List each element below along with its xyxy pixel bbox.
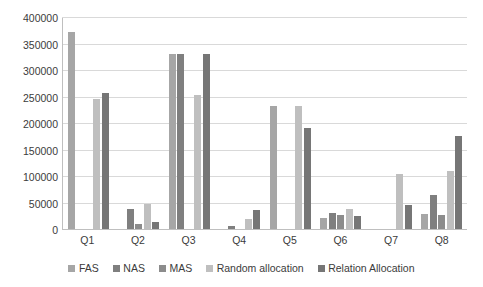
- bar-slot: [320, 18, 327, 229]
- bar-slot: [455, 18, 462, 229]
- y-axis-tick-label: 0: [2, 225, 58, 235]
- bar-slot: [396, 18, 403, 229]
- bar: [329, 213, 336, 229]
- x-axis-tick-label: Q4: [214, 232, 265, 250]
- bar-slot: [93, 18, 100, 229]
- bar: [169, 54, 176, 229]
- legend-item-nas[interactable]: NAS: [113, 263, 145, 274]
- bar-group-q5: [265, 18, 316, 229]
- bar-slot: [135, 18, 142, 229]
- legend: FASNASMASRandom allocationRelation Alloc…: [0, 259, 483, 277]
- bar-slot: [236, 18, 243, 229]
- legend-item-random-allocation[interactable]: Random allocation: [206, 263, 303, 274]
- bar-slot: [337, 18, 344, 229]
- bar-slot: [76, 18, 83, 229]
- bar-slot: [388, 18, 395, 229]
- bar-slot: [68, 18, 75, 229]
- bar-slot: [186, 18, 193, 229]
- bar-group-q1: [63, 18, 114, 229]
- y-axis-tick-label: 200000: [2, 119, 58, 129]
- bar-slot: [219, 18, 226, 229]
- bar-slot: [430, 18, 437, 229]
- bar-group-q6: [316, 18, 367, 229]
- bar: [438, 215, 445, 229]
- bar-slot: [245, 18, 252, 229]
- bar-slot: [127, 18, 134, 229]
- x-axis-tick-label: Q2: [113, 232, 164, 250]
- bar: [177, 54, 184, 229]
- legend-item-fas[interactable]: FAS: [68, 263, 98, 274]
- bar: [405, 205, 412, 229]
- y-axis-tick-label: 250000: [2, 93, 58, 103]
- bar: [152, 222, 159, 229]
- bar-slot: [194, 18, 201, 229]
- bar: [354, 216, 361, 229]
- bar-slot: [295, 18, 302, 229]
- legend-label: Random allocation: [217, 263, 304, 274]
- bar-slot: [169, 18, 176, 229]
- bar-slot: [371, 18, 378, 229]
- bar-slot: [354, 18, 361, 229]
- bar: [135, 224, 142, 229]
- bar-slot: [253, 18, 260, 229]
- bar-slot: [144, 18, 151, 229]
- legend-item-relation-allocation[interactable]: Relation Allocation: [318, 263, 415, 274]
- bar-slot: [346, 18, 353, 229]
- bar-slot: [421, 18, 428, 229]
- y-axis-tick-label: 150000: [2, 146, 58, 156]
- bar: [320, 218, 327, 229]
- y-axis: 0500001000001500002000002500003000003500…: [0, 18, 58, 230]
- bar-slot: [379, 18, 386, 229]
- bar: [245, 219, 252, 229]
- bar: [203, 54, 210, 229]
- bar-group-q3: [164, 18, 215, 229]
- bar-slot: [152, 18, 159, 229]
- bar: [270, 106, 277, 229]
- legend-item-mas[interactable]: MAS: [159, 263, 192, 274]
- bar-groups: [63, 18, 467, 229]
- bar-chart: 0500001000001500002000002500003000003500…: [0, 0, 483, 287]
- bar: [194, 95, 201, 229]
- bar-slot: [438, 18, 445, 229]
- bar: [430, 195, 437, 229]
- bar: [144, 204, 151, 229]
- bar-slot: [329, 18, 336, 229]
- bar-slot: [228, 18, 235, 229]
- plot-area: [62, 18, 467, 230]
- bar-slot: [102, 18, 109, 229]
- legend-swatch-icon: [206, 265, 213, 272]
- bar: [337, 215, 344, 229]
- bar: [346, 209, 353, 229]
- legend-swatch-icon: [113, 265, 120, 272]
- bar-slot: [278, 18, 285, 229]
- bar-slot: [447, 18, 454, 229]
- legend-swatch-icon: [318, 265, 325, 272]
- bar: [295, 106, 302, 229]
- bar: [102, 93, 109, 229]
- bar-slot: [118, 18, 125, 229]
- bar: [228, 226, 235, 229]
- bar-slot: [304, 18, 311, 229]
- bar: [127, 209, 134, 229]
- y-axis-tick-label: 350000: [2, 40, 58, 50]
- bar: [447, 171, 454, 229]
- legend-label: FAS: [79, 263, 99, 274]
- bar-group-q8: [417, 18, 468, 229]
- bar-slot: [203, 18, 210, 229]
- x-axis-tick-label: Q1: [62, 232, 113, 250]
- bar-slot: [405, 18, 412, 229]
- x-axis-tick-label: Q5: [265, 232, 316, 250]
- y-axis-tick-label: 400000: [2, 13, 58, 23]
- y-axis-tick-label: 50000: [2, 199, 58, 209]
- legend-swatch-icon: [68, 265, 75, 272]
- legend-swatch-icon: [159, 265, 166, 272]
- bar: [455, 136, 462, 229]
- bar-group-q7: [366, 18, 417, 229]
- bar: [304, 128, 311, 229]
- x-axis: Q1Q2Q3Q4Q5Q6Q7Q8: [62, 232, 467, 250]
- bar: [68, 32, 75, 229]
- bar-slot: [177, 18, 184, 229]
- x-axis-tick-label: Q7: [366, 232, 417, 250]
- bar-group-q2: [114, 18, 165, 229]
- bar-group-q4: [215, 18, 266, 229]
